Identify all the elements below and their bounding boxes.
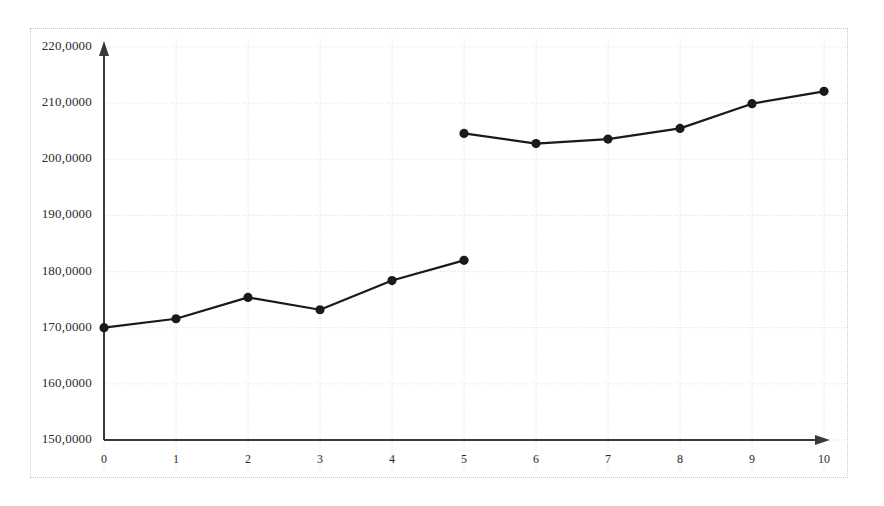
data-point-marker[interactable] — [819, 87, 828, 96]
y-tick-label: 200,0000 — [14, 150, 92, 166]
y-tick-label: 220,0000 — [14, 38, 92, 54]
x-tick-label: 2 — [233, 452, 263, 467]
x-tick-label: 7 — [593, 452, 623, 467]
x-tick-label: 9 — [737, 452, 767, 467]
x-tick-label: 5 — [449, 452, 479, 467]
x-tick-label: 0 — [89, 452, 119, 467]
x-tick-label: 3 — [305, 452, 335, 467]
data-point-marker[interactable] — [531, 139, 540, 148]
y-tick-label: 170,0000 — [14, 319, 92, 335]
x-tick-label: 1 — [161, 452, 191, 467]
chart-container: 150,0000160,0000170,0000180,0000190,0000… — [0, 0, 884, 506]
gridlines-group — [104, 39, 848, 470]
y-tick-label: 210,0000 — [14, 94, 92, 110]
y-tick-label: 160,0000 — [14, 375, 92, 391]
data-point-marker[interactable] — [747, 99, 756, 108]
chart-plot-area — [0, 0, 884, 506]
x-tick-label: 6 — [521, 452, 551, 467]
data-point-marker[interactable] — [459, 129, 468, 138]
y-tick-label: 190,0000 — [14, 206, 92, 222]
series-line-2 — [464, 91, 824, 143]
x-axis-arrow-icon — [815, 435, 830, 445]
y-axis-arrow-icon — [99, 41, 109, 56]
data-point-marker[interactable] — [243, 293, 252, 302]
y-tick-label: 150,0000 — [14, 431, 92, 447]
data-point-marker[interactable] — [603, 134, 612, 143]
data-point-marker[interactable] — [459, 256, 468, 265]
data-point-marker[interactable] — [99, 323, 108, 332]
y-tick-label: 180,0000 — [14, 263, 92, 279]
x-tick-label: 8 — [665, 452, 695, 467]
x-tick-label: 4 — [377, 452, 407, 467]
data-point-marker[interactable] — [171, 314, 180, 323]
x-tick-label: 10 — [809, 452, 839, 467]
series-line-1 — [104, 260, 464, 327]
data-point-marker[interactable] — [675, 124, 684, 133]
data-point-marker[interactable] — [315, 305, 324, 314]
data-point-marker[interactable] — [387, 276, 396, 285]
